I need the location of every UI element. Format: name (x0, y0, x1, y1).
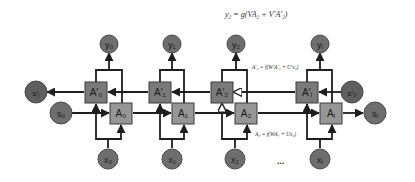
svg-text:A₀: A₀ (116, 108, 127, 119)
backward-cell-a1: A′₁ (149, 82, 171, 103)
svg-text:s′₀: s′₀ (348, 89, 357, 98)
svg-text:x₀: x₀ (104, 155, 113, 165)
svg-text:y₀: y₀ (105, 40, 114, 50)
svg-text:x₁: x₁ (168, 155, 176, 165)
backward-cell-ai: A′ᵢ (296, 82, 318, 103)
bidirectional-rnn-diagram: y₀ y₁ y₂ yᵢ A′₀ A′₁ A′₂ A′ᵢ (0, 0, 415, 182)
svg-text:y₁: y₁ (168, 40, 176, 50)
svg-text:yᵢ: yᵢ (317, 40, 323, 50)
input-node-x1: x₁ (162, 149, 182, 169)
backward-cell-a0: A′₀ (85, 82, 107, 103)
backward-cell-a2: A′₂ (211, 82, 233, 103)
svg-text:y₂: y₂ (232, 40, 241, 50)
svg-text:A₁: A₁ (178, 108, 189, 119)
svg-text:A₂: A₂ (241, 108, 252, 119)
input-node-x2: x₂ (225, 149, 245, 169)
svg-text:Aᵢ: Aᵢ (327, 108, 336, 119)
output-node-y2: y₂ (227, 35, 245, 53)
ellipsis: ... (277, 156, 285, 166)
output-nodes: y₀ y₁ y₂ yᵢ (100, 35, 329, 53)
forward-equation: A₂ = f(WA₁ + Ux₂) (255, 131, 296, 137)
output-node-y0: y₀ (100, 35, 118, 53)
forward-cell-a1: A₁ (172, 103, 194, 124)
state-node-s-prime-i: s′ᵢ (25, 81, 47, 103)
svg-text:xᵢ: xᵢ (317, 155, 323, 165)
svg-text:A′₀: A′₀ (90, 87, 103, 98)
svg-text:A′₂: A′₂ (216, 87, 229, 98)
svg-text:s′ᵢ: s′ᵢ (33, 89, 40, 98)
input-node-xi: xᵢ (310, 149, 330, 169)
input-nodes: x₀ x₁ x₂ xᵢ (98, 149, 330, 169)
svg-text:x₂: x₂ (231, 155, 240, 165)
output-node-yi: yᵢ (311, 35, 329, 53)
output-equation: y₂ = g(VA₂ + V′A′₂) (225, 10, 287, 19)
svg-text:A′ᵢ: A′ᵢ (302, 87, 313, 98)
output-node-y1: y₁ (163, 35, 181, 53)
state-node-si: sᵢ (364, 102, 386, 124)
backward-equation: A′₂ = f(W′A′₂ + U′x₂) (252, 64, 298, 70)
state-node-s0: s₀ (50, 102, 72, 124)
input-node-x0: x₀ (98, 149, 118, 169)
svg-text:sᵢ: sᵢ (372, 109, 378, 119)
forward-cell-a0: A₀ (110, 103, 132, 124)
forward-cell-a2: A₂ (235, 103, 257, 124)
svg-text:s₀: s₀ (57, 109, 66, 119)
forward-cell-ai: Aᵢ (320, 103, 342, 124)
svg-text:A′₁: A′₁ (154, 87, 167, 98)
state-node-s-prime-0: s′₀ (341, 81, 363, 103)
